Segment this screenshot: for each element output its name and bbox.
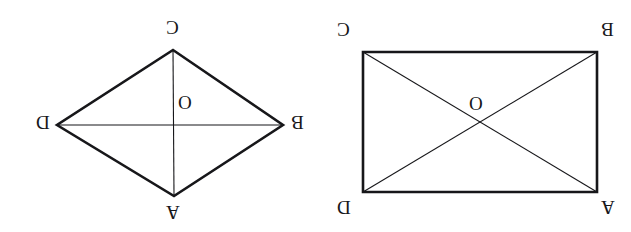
rectangle-center-label-o: O [469,94,483,113]
rhombus-outline [57,50,283,196]
rhombus-figure: C B A D O [0,0,315,232]
rectangle-vertex-label-c: C [337,20,350,39]
rhombus-vertex-label-d: D [36,113,50,132]
rhombus-vertex-label-a: A [166,203,180,222]
rectangle-vertex-label-b: B [601,20,614,39]
rectangle-figure: C B A D O [315,0,631,232]
geometry-figure-page: C B A D O C B A D O [0,0,631,232]
rhombus-vertex-label-c: C [166,18,179,37]
rhombus-diagonal-ca [173,50,174,196]
rhombus-vertex-label-b: B [291,113,304,132]
rhombus-center-label-o: O [178,93,192,112]
rectangle-vertex-label-a: A [601,198,615,217]
rectangle-drawing [315,0,631,232]
rectangle-vertex-label-d: D [337,198,351,217]
